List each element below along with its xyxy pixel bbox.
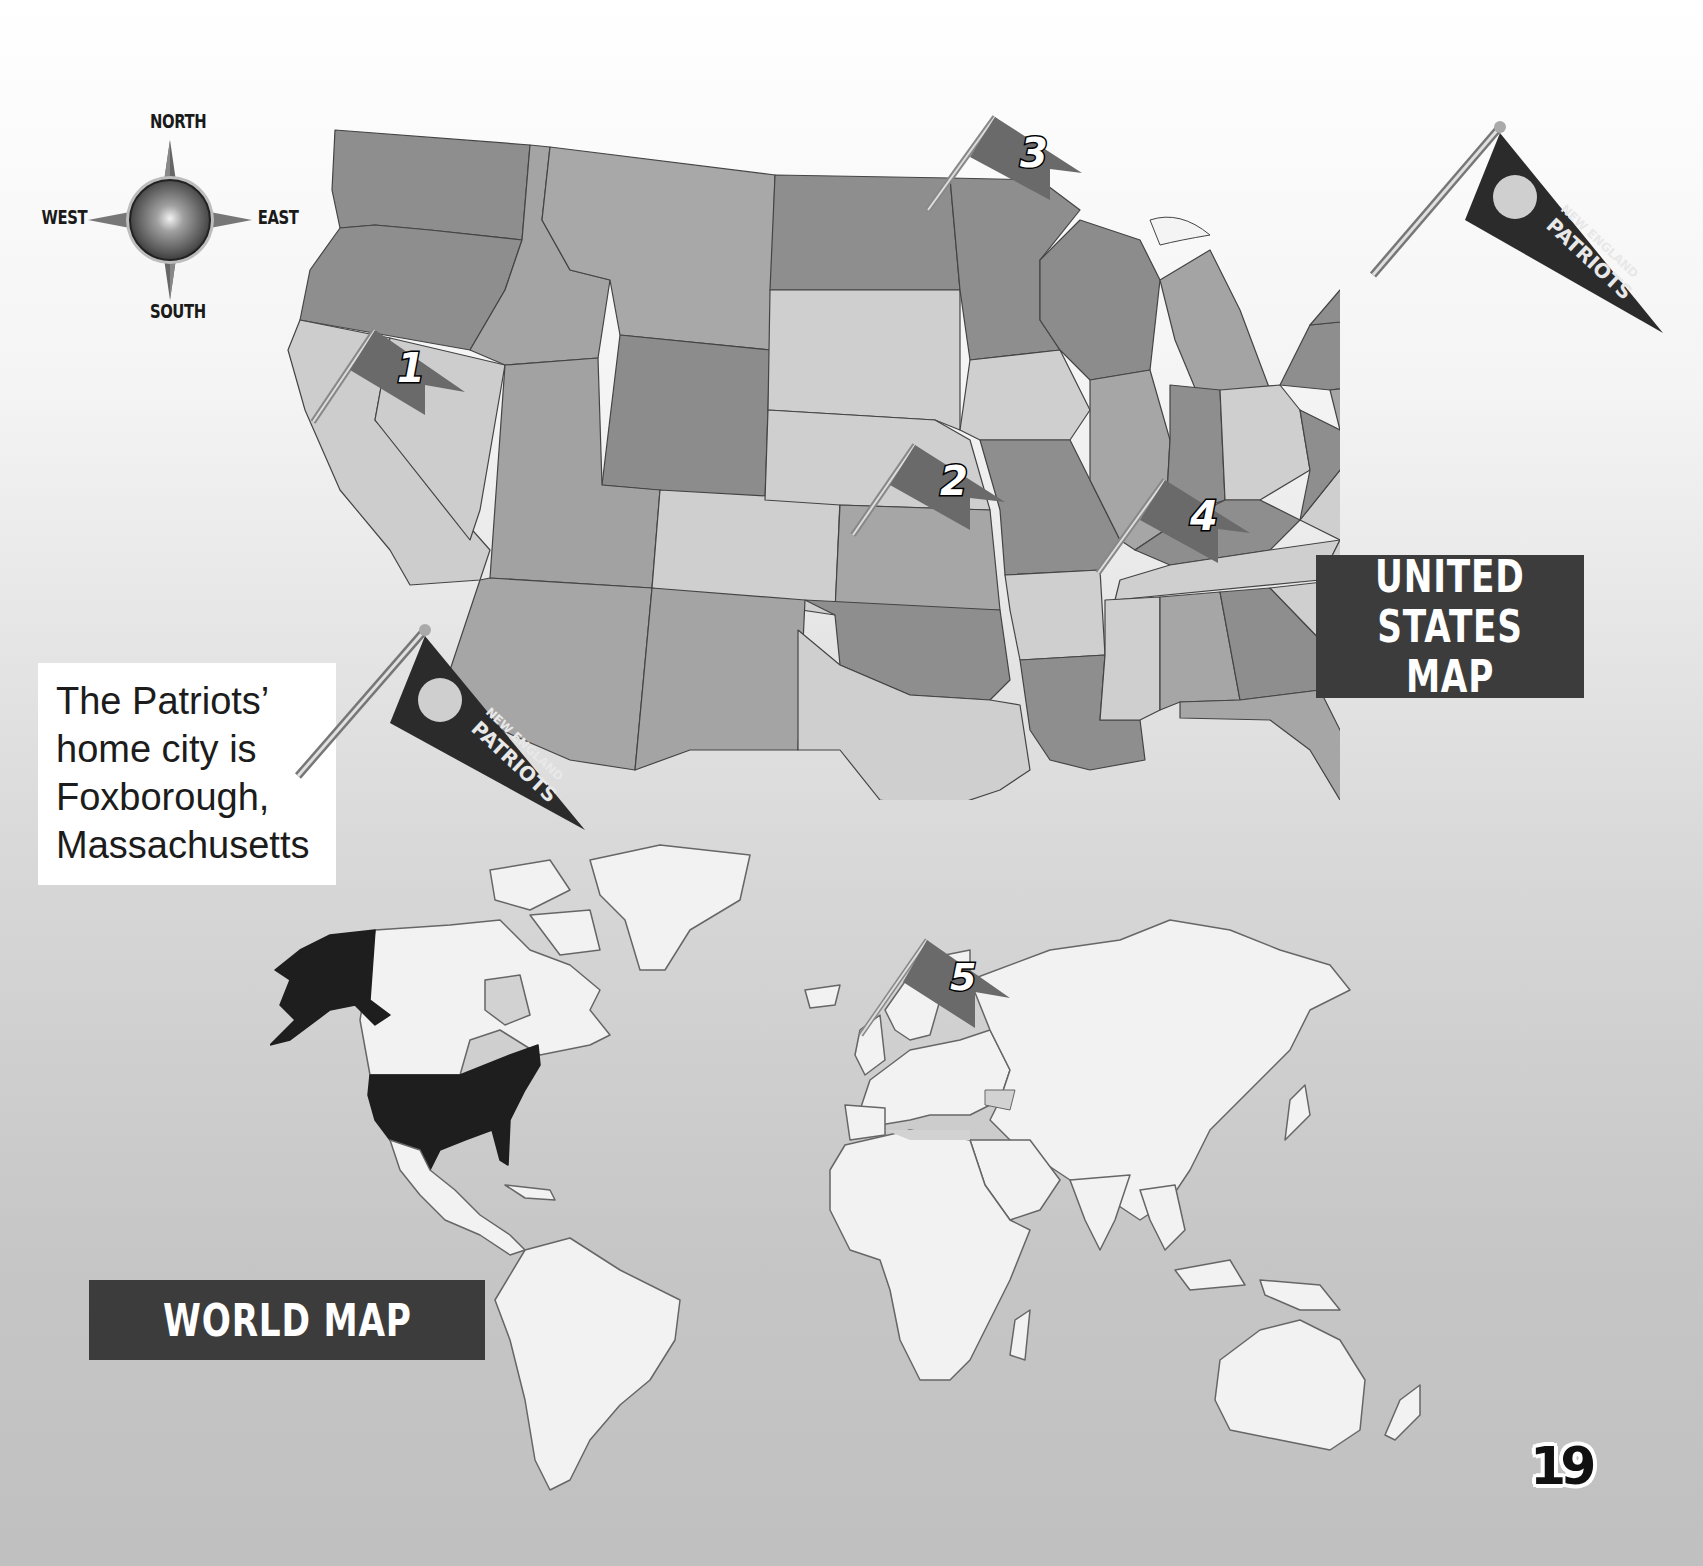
state-washington [332, 130, 530, 240]
caption-patriots-pennant: NEW ENGLAND PATRIOTS [290, 618, 590, 838]
compass-north-label: NORTH [150, 110, 206, 132]
compass-west-label: WEST [41, 206, 87, 228]
map-flag-3: 3 [920, 105, 1100, 220]
pennant-icon: NEW ENGLAND PATRIOTS [290, 618, 590, 838]
svg-text:5: 5 [950, 955, 976, 999]
pennant-icon: NEW ENGLAND PATRIOTS [1365, 115, 1665, 340]
page-number: 19 [1530, 1436, 1590, 1496]
svg-text:4: 4 [1189, 493, 1218, 539]
svg-text:3: 3 [1020, 130, 1048, 176]
map-flag-2: 2 [845, 430, 1025, 550]
world-map-title-text: WORLD MAP [163, 1295, 412, 1346]
flag-icon: 2 [845, 430, 1025, 550]
map-flag-1: 1 [305, 310, 485, 430]
svg-text:1: 1 [397, 345, 425, 391]
world-map-title: WORLD MAP [89, 1280, 485, 1360]
svg-text:2: 2 [940, 458, 968, 504]
us-map-patriots-pennant: NEW ENGLAND PATRIOTS [1365, 115, 1665, 340]
us-map-title: UNITED STATES MAP [1316, 555, 1584, 698]
flag-icon: 5 [855, 930, 1025, 1045]
flag-icon: 3 [920, 105, 1100, 220]
flag-icon: 4 [1090, 465, 1270, 585]
map-flag-5: 5 [855, 930, 1025, 1045]
compass-rose: NORTH SOUTH WEST EAST [30, 100, 310, 330]
flag-icon: 1 [305, 310, 485, 430]
compass-south-label: SOUTH [150, 300, 206, 322]
us-map-title-line1: UNITED [1375, 552, 1524, 602]
us-map-title-line2: STATES MAP [1345, 602, 1554, 702]
map-flag-4: 4 [1090, 465, 1270, 585]
